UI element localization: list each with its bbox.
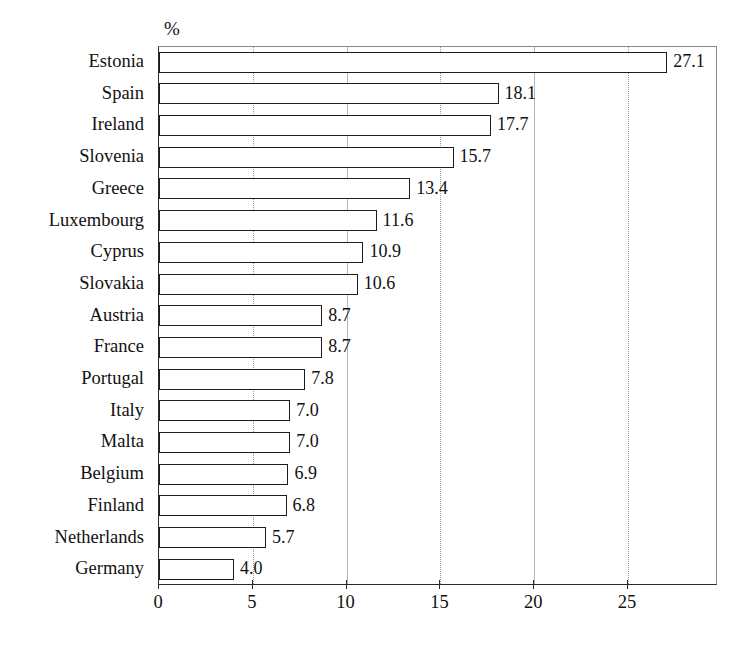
- category-label-greece: Greece: [92, 173, 144, 205]
- category-label-germany: Germany: [75, 553, 144, 585]
- bar-value-label: 13.4: [416, 176, 448, 201]
- bar-value-label: 7.0: [296, 429, 319, 454]
- x-tick-mark-15: [439, 580, 440, 589]
- bar: [159, 432, 290, 453]
- bar-value-label: 18.1: [505, 81, 537, 106]
- bar: [159, 559, 234, 580]
- bar-row: 7.0: [159, 396, 718, 428]
- category-label-ireland: Ireland: [92, 109, 144, 141]
- x-tick-mark-20: [533, 580, 534, 589]
- category-label-italy: Italy: [110, 395, 144, 427]
- bar: [159, 337, 322, 358]
- bar-row: 6.9: [159, 459, 718, 491]
- bar-row: 10.9: [159, 237, 718, 269]
- category-label-slovakia: Slovakia: [79, 268, 144, 300]
- category-label-malta: Malta: [101, 426, 144, 458]
- category-label-france: France: [94, 331, 144, 363]
- category-label-estonia: Estonia: [89, 46, 145, 78]
- bar: [159, 210, 377, 231]
- bar: [159, 464, 288, 485]
- bar-value-label: 5.7: [272, 525, 295, 550]
- category-axis-labels: EstoniaSpainIrelandSloveniaGreeceLuxembo…: [0, 46, 152, 585]
- unit-label: %: [164, 18, 180, 40]
- x-tick-label-15: 15: [430, 589, 449, 615]
- x-tick-label-5: 5: [247, 589, 256, 615]
- bar-value-label: 7.0: [296, 398, 319, 423]
- category-label-slovenia: Slovenia: [79, 141, 144, 173]
- bar-value-label: 8.7: [328, 303, 351, 328]
- bar: [159, 147, 454, 168]
- bar-value-label: 7.8: [311, 366, 334, 391]
- bar-value-label: 6.8: [293, 493, 316, 518]
- bar: [159, 305, 322, 326]
- bar-value-label: 6.9: [294, 461, 317, 486]
- bar-series: 27.118.117.715.713.411.610.910.68.78.77.…: [159, 47, 716, 584]
- bar: [159, 52, 667, 73]
- category-label-cyprus: Cyprus: [91, 236, 144, 268]
- bar-row: 17.7: [159, 110, 718, 142]
- x-tick-mark-5: [252, 580, 253, 589]
- bar-value-label: 11.6: [383, 208, 414, 233]
- bar-row: 15.7: [159, 142, 718, 174]
- category-label-luxembourg: Luxembourg: [49, 205, 144, 237]
- bar-chart: % EstoniaSpainIrelandSloveniaGreeceLuxem…: [0, 0, 743, 645]
- bar-row: 7.0: [159, 427, 718, 459]
- bar: [159, 115, 491, 136]
- x-tick-mark-25: [627, 580, 628, 589]
- x-tick-label-20: 20: [524, 589, 543, 615]
- bar-value-label: 27.1: [673, 49, 705, 74]
- x-tick-label-10: 10: [336, 589, 355, 615]
- bar: [159, 83, 499, 104]
- category-label-netherlands: Netherlands: [55, 522, 144, 554]
- bar-value-label: 4.0: [240, 556, 263, 581]
- category-label-belgium: Belgium: [80, 458, 144, 490]
- bar-value-label: 8.7: [328, 334, 351, 359]
- x-tick-label-0: 0: [153, 589, 162, 615]
- bar-row: 8.7: [159, 301, 718, 333]
- category-label-finland: Finland: [87, 490, 144, 522]
- bar: [159, 527, 266, 548]
- bar-row: 7.8: [159, 364, 718, 396]
- category-label-spain: Spain: [102, 78, 144, 110]
- bar-row: 6.8: [159, 491, 718, 523]
- bar: [159, 242, 363, 263]
- bar-value-label: 15.7: [460, 144, 492, 169]
- category-label-portugal: Portugal: [81, 363, 144, 395]
- bar: [159, 274, 358, 295]
- bar-value-label: 17.7: [497, 112, 529, 137]
- category-label-austria: Austria: [90, 300, 144, 332]
- bar-row: 27.1: [159, 47, 718, 79]
- bar: [159, 400, 290, 421]
- bar-row: 13.4: [159, 174, 718, 206]
- bar: [159, 495, 287, 516]
- x-tick-label-25: 25: [618, 589, 637, 615]
- x-axis-tick-labels: 0510152025: [0, 589, 743, 629]
- x-tick-mark-10: [346, 580, 347, 589]
- bar-row: 8.7: [159, 332, 718, 364]
- bar: [159, 369, 305, 390]
- bar-row: 5.7: [159, 523, 718, 555]
- plot-area: 27.118.117.715.713.411.610.910.68.78.77.…: [158, 46, 717, 585]
- bar-row: 10.6: [159, 269, 718, 301]
- bar-value-label: 10.9: [369, 239, 401, 264]
- bar-row: 11.6: [159, 206, 718, 238]
- x-tick-mark-0: [158, 580, 159, 589]
- bar-row: 18.1: [159, 79, 718, 111]
- bar-value-label: 10.6: [364, 271, 396, 296]
- bar: [159, 178, 410, 199]
